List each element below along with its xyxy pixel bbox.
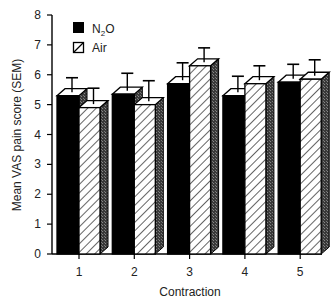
y-axis: 012345678 xyxy=(34,8,52,261)
legend-label-n2o: N2O xyxy=(92,22,114,38)
bar-air xyxy=(245,77,274,254)
y-tick-label: 4 xyxy=(34,128,41,142)
y-tick-label: 0 xyxy=(34,247,41,261)
x-tick-label: 2 xyxy=(131,265,138,279)
y-tick-label: 3 xyxy=(34,157,41,171)
legend-swatch-solid xyxy=(73,22,84,33)
y-tick-label: 2 xyxy=(34,187,41,201)
bar-air xyxy=(134,98,163,254)
bar-air xyxy=(190,59,219,254)
legend-label-air: Air xyxy=(92,41,107,55)
y-tick-label: 7 xyxy=(34,38,41,52)
bar-chart: 012345678 12345 N2O Air Contraction Mean… xyxy=(0,0,335,306)
y-tick-label: 6 xyxy=(34,68,41,82)
y-tick-label: 1 xyxy=(34,217,41,231)
bar-air xyxy=(79,101,108,254)
bar-air xyxy=(300,72,329,254)
x-tick-label: 5 xyxy=(297,265,304,279)
legend-item-air: Air xyxy=(74,41,107,55)
x-axis: 12345 xyxy=(52,254,322,279)
legend-item-n2o: N2O xyxy=(73,22,114,38)
y-axis-title: Mean VAS pain score (SEM) xyxy=(10,59,24,212)
y-tick-label: 5 xyxy=(34,98,41,112)
legend: N2O Air xyxy=(73,22,114,55)
x-tick-label: 4 xyxy=(242,265,249,279)
x-tick-label: 1 xyxy=(76,265,83,279)
y-tick-label: 8 xyxy=(34,8,41,22)
x-tick-label: 3 xyxy=(186,265,193,279)
x-axis-title: Contraction xyxy=(159,285,220,299)
